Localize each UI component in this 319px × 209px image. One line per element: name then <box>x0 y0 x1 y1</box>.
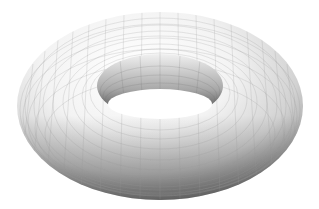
torus-body <box>17 12 303 200</box>
torus-canvas <box>0 0 319 209</box>
torus-illustration <box>0 0 319 209</box>
